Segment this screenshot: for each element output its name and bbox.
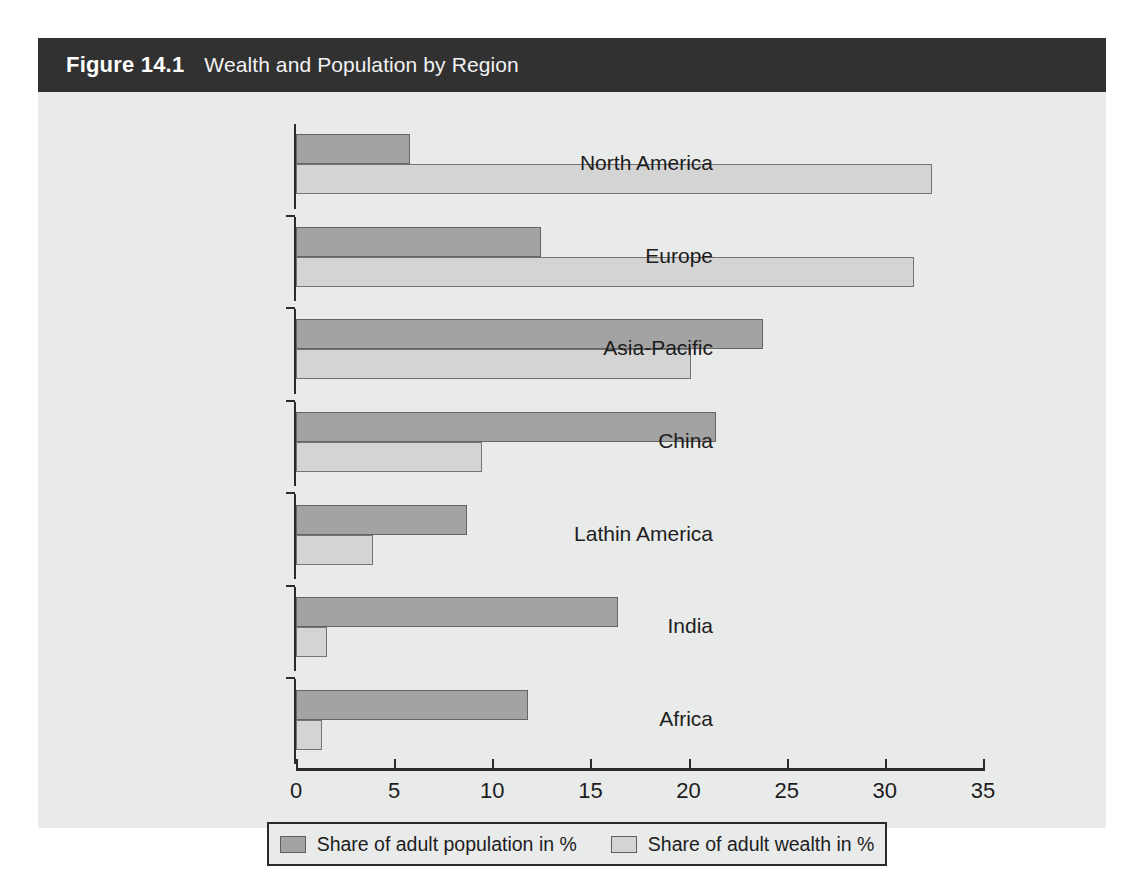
figure-title-label: Wealth and Population by Region: [204, 53, 518, 77]
category-label-africa: Africa: [453, 707, 713, 731]
x-axis-tick-label: 5: [388, 778, 400, 804]
legend-entry-wealth: Share of adult wealth in %: [611, 833, 875, 856]
x-axis-tick-label: 20: [676, 778, 700, 804]
chart-legend: Share of adult population in %Share of a…: [267, 822, 887, 866]
bar-wealth: [296, 720, 322, 750]
chart-panel: North AmericaEuropeAsia-PacificChinaLath…: [38, 92, 1106, 828]
category-label-lathin-america: Lathin America: [453, 522, 713, 546]
bar-wealth: [296, 535, 373, 565]
category-label-europe: Europe: [453, 244, 713, 268]
figure-title-bar: Figure 14.1 Wealth and Population by Reg…: [38, 38, 1106, 92]
plot-area: North AmericaEuropeAsia-PacificChinaLath…: [296, 120, 983, 768]
legend-label: Share of adult population in %: [317, 833, 577, 856]
x-axis-tick: [689, 759, 691, 768]
figure-number-label: Figure 14.1: [66, 52, 184, 78]
legend-swatch-wealth-icon: [611, 836, 637, 853]
x-axis-tick: [590, 759, 592, 768]
x-axis-tick: [787, 759, 789, 768]
category-label-asia-pacific: Asia-Pacific: [453, 336, 713, 360]
x-axis-tick: [394, 759, 396, 768]
x-axis: 05101520253035: [296, 768, 985, 771]
legend-label: Share of adult wealth in %: [648, 833, 875, 856]
bar-population: [296, 505, 467, 535]
bar-population: [296, 134, 410, 164]
x-axis-tick: [296, 759, 298, 768]
x-axis-tick-label: 15: [578, 778, 602, 804]
x-axis-tick-label: 35: [971, 778, 995, 804]
x-axis-tick-label: 0: [290, 778, 302, 804]
y-axis-tick: [286, 677, 295, 679]
y-axis-tick: [286, 307, 295, 309]
category-label-india: India: [453, 614, 713, 638]
figure-container: Figure 14.1 Wealth and Population by Reg…: [38, 38, 1106, 828]
category-label-north-america: North America: [453, 151, 713, 175]
x-axis-tick-label: 30: [873, 778, 897, 804]
legend-entry-population: Share of adult population in %: [280, 833, 577, 856]
bar-wealth: [296, 627, 327, 657]
y-axis-tick: [286, 492, 295, 494]
x-axis-tick-label: 10: [480, 778, 504, 804]
legend-swatch-population-icon: [280, 836, 306, 853]
y-axis-tick: [286, 585, 295, 587]
x-axis-tick: [983, 759, 985, 768]
x-axis-tick: [885, 759, 887, 768]
y-axis-tick: [286, 400, 295, 402]
x-axis-tick-label: 25: [774, 778, 798, 804]
x-axis-tick: [492, 759, 494, 768]
y-axis-tick: [286, 215, 295, 217]
category-label-china: China: [453, 429, 713, 453]
